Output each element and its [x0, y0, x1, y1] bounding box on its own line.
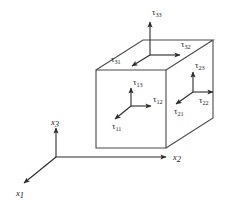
x3-axis-label: x3: [50, 117, 59, 129]
diagram-canvas: τ33 τ32 τ31 τ13 τ12 τ11: [0, 0, 230, 207]
tau21-subscript: 21: [177, 110, 183, 117]
tau31-subscript: 31: [114, 58, 120, 65]
stress-cube-figure: τ33 τ32 τ31 τ13 τ12 τ11: [0, 0, 230, 207]
x2-subscript: 2: [177, 154, 182, 164]
x1-subscript: 1: [20, 190, 24, 200]
tau33-label: τ33: [152, 7, 162, 18]
x1-axis-arrow: [24, 157, 56, 183]
x3-subscript: 3: [54, 119, 59, 129]
tau11-subscript: 11: [115, 125, 121, 132]
tau22-subscript: 22: [202, 99, 208, 106]
tau33-subscript: 33: [155, 11, 161, 18]
x2-axis-label: x2: [172, 152, 182, 164]
tau23-subscript: 23: [198, 64, 204, 71]
cube-front-face: [96, 70, 166, 148]
tau32-subscript: 32: [184, 43, 190, 50]
tau13-subscript: 13: [136, 81, 142, 88]
tau12-subscript: 12: [156, 98, 162, 105]
x1-axis-label: x1: [15, 188, 24, 200]
